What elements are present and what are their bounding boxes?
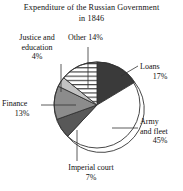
- pie-label-imperial-court: Imperial court 7%: [48, 163, 134, 182]
- pie-chart-figure: Expenditure of the Russian Government in…: [0, 0, 183, 191]
- pie-label-army-line1: Army: [140, 117, 159, 126]
- pie-label-justice-percent: 4%: [32, 52, 43, 61]
- pie-label-finance-text: Finance: [2, 99, 27, 108]
- pie-label-finance: Finance 13%: [2, 99, 44, 118]
- pie-label-army-percent: 45%: [140, 136, 180, 146]
- pie-label-other-text: Other 14%: [68, 33, 103, 42]
- pie-label-justice-and-education: Justice and education 4%: [6, 33, 68, 62]
- pie-label-finance-percent: 13%: [2, 109, 42, 119]
- pie-label-imperial-text: Imperial court: [68, 163, 114, 172]
- pie-label-other: Other 14%: [68, 33, 130, 43]
- pie-label-loans: Loans 17%: [140, 62, 183, 81]
- pie-label-army-line2: and fleet: [140, 127, 168, 136]
- pie-label-loans-percent: 17%: [140, 72, 180, 82]
- pie-label-army-and-fleet: Army and fleet 45%: [140, 117, 183, 146]
- pie-label-justice-line2: education: [21, 43, 52, 52]
- pie-label-loans-text: Loans: [140, 62, 160, 71]
- pie-label-justice-line1: Justice and: [19, 33, 54, 42]
- pie-label-imperial-percent: 7%: [48, 173, 134, 183]
